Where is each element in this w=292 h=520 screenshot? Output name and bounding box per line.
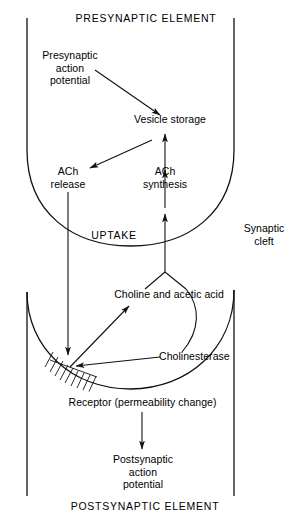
label-presynaptic-action-potential: Presynaptic action potential (28, 49, 112, 87)
label-presynaptic-element: PRESYNAPTIC ELEMENT (56, 12, 236, 25)
arrow-cholinesterase-to-receptor (76, 357, 160, 366)
label-choline-and-acetic-acid: Choline and acetic acid (104, 288, 234, 301)
synapse-diagram: PRESYNAPTIC ELEMENT Presynaptic action p… (0, 0, 292, 520)
label-cholinesterase: Cholinesterase (159, 350, 243, 363)
label-postsynaptic-element: POSTSYNAPTIC ELEMENT (50, 500, 240, 513)
label-uptake: UPTAKE (79, 229, 149, 242)
label-ach-release: ACh release (36, 165, 100, 190)
label-synaptic-cleft: Synaptic cleft (237, 222, 291, 247)
choline-junction (145, 256, 186, 289)
label-vesicle-storage: Vesicle storage (120, 113, 220, 126)
label-postsynaptic-action-potential: Postsynaptic action potential (101, 453, 185, 491)
label-receptor: Receptor (permeability change) (45, 396, 240, 409)
label-ach-synthesis: ACh synthesis (133, 165, 197, 190)
arrow-receptor-to-choline (70, 306, 129, 367)
arrow-vesicle-to-release (90, 140, 152, 168)
